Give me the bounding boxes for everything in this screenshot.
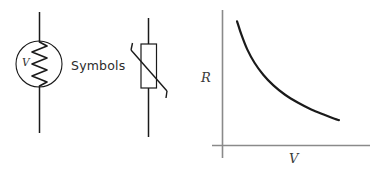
rv-characteristic-chart	[212, 10, 370, 158]
box-symbol-diagonal-upper-hook	[131, 43, 133, 50]
chart-y-axis-label: R	[201, 71, 211, 84]
symbols-caption: Symbols	[71, 60, 125, 73]
thermistor-box-symbol	[131, 18, 167, 137]
box-symbol-body	[141, 44, 157, 88]
chart-x-axis-label: V	[289, 152, 298, 165]
circle-symbol-zigzag-element	[32, 42, 47, 86]
thermistor-circle-symbol	[16, 12, 62, 133]
figure-vector-layer	[0, 0, 382, 175]
circle-symbol-label: V	[22, 57, 30, 68]
box-symbol-diagonal-lower-hook	[166, 91, 167, 98]
chart-curve-series-0	[237, 21, 339, 120]
figure-canvas: V Symbols R V	[0, 0, 382, 175]
